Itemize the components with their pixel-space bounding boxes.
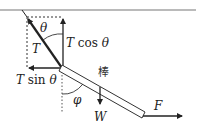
tension-label: T [32, 42, 41, 56]
tension-horizontal-label: T sin θ [16, 73, 57, 87]
string-line [22, 10, 27, 17]
force-label: F [153, 99, 163, 113]
weight-label: W [94, 110, 108, 124]
rod-label: 棒 [98, 65, 109, 79]
tension-vertical-label: T cos θ [66, 36, 110, 50]
force-diagram: θ T T cos θ T sin θ 棒 φ W F [0, 0, 201, 129]
theta-label: θ [40, 21, 48, 35]
phi-label: φ [73, 93, 82, 107]
